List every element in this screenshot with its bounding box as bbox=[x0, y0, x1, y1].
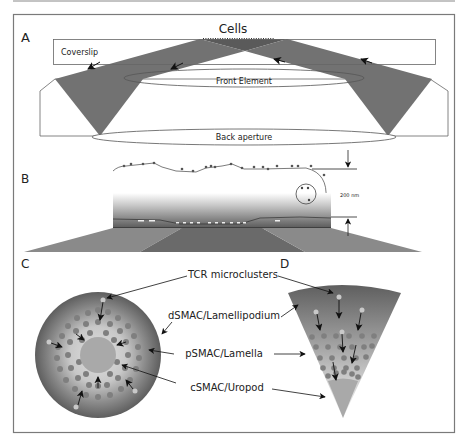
dsmac-arrow-right-icon bbox=[281, 305, 298, 317]
panel-a: A Cells Coverslip Front Element Back ape… bbox=[21, 22, 448, 145]
dsmac-label: dSMAC/Lamellipodium bbox=[168, 310, 280, 321]
tcr-arrow-left-icon bbox=[107, 276, 187, 298]
panel-b-letter: B bbox=[21, 172, 29, 186]
beam-cone-right bbox=[345, 79, 432, 136]
psmac-label: pSMAC/Lamella bbox=[185, 348, 263, 359]
beam-incident-right bbox=[245, 39, 432, 79]
csmac-center bbox=[80, 337, 116, 373]
panel-d-letter: D bbox=[280, 257, 289, 271]
figure-canvas: A Cells Coverslip Front Element Back ape… bbox=[0, 0, 465, 445]
csmac-arrow-right-icon bbox=[272, 389, 325, 397]
panel-c-letter: C bbox=[21, 257, 29, 271]
beam-reflected-left bbox=[55, 39, 245, 79]
panel-b: B bbox=[21, 150, 422, 252]
distance-label: 200 nm bbox=[340, 192, 359, 198]
csmac-label: cSMAC/Uropod bbox=[190, 382, 264, 393]
front-element-label: Front Element bbox=[216, 77, 272, 86]
membrane-proteins bbox=[123, 162, 326, 177]
coverslip-label: Coverslip bbox=[61, 48, 98, 57]
panel-c: C bbox=[21, 257, 161, 418]
beam-cone-left bbox=[55, 79, 143, 136]
panel-a-letter: A bbox=[21, 30, 30, 45]
dsmac-arrow-left-icon bbox=[162, 322, 172, 334]
tcr-microclusters-label: TCR microclusters bbox=[187, 269, 278, 280]
uropod-sector bbox=[328, 379, 358, 419]
back-aperture-label: Back aperture bbox=[216, 133, 272, 142]
cells-label: Cells bbox=[219, 22, 248, 36]
panel-d: D bbox=[280, 257, 401, 418]
